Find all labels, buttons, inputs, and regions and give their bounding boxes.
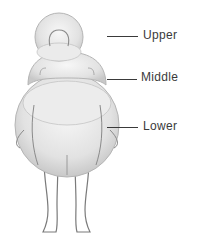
upper-sphere [35, 13, 83, 61]
lower-sphere [15, 73, 119, 177]
middle-leader-line [107, 79, 137, 80]
label-lower: Lower [143, 119, 177, 133]
label-middle: Middle [141, 70, 178, 84]
lower-leader-line [107, 127, 138, 128]
upper-leader-line [107, 36, 138, 37]
label-upper: Upper [143, 28, 177, 42]
